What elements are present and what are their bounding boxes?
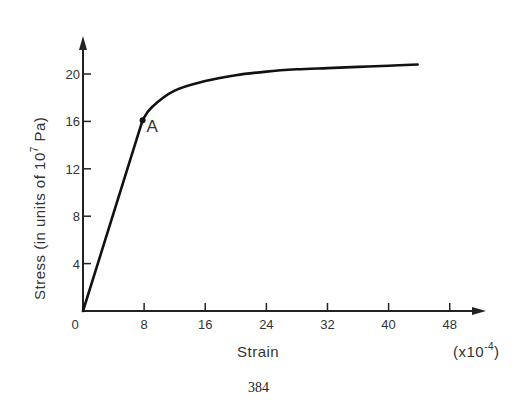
y-tick-label: 20: [66, 67, 80, 82]
y-tick-label: 8: [73, 209, 80, 224]
x-axis-title: Strain: [237, 343, 279, 360]
y-title-suffix: Pa): [31, 117, 48, 147]
y-tick-label: 12: [66, 162, 80, 177]
x-tick-label: 16: [198, 317, 212, 332]
x-tick-label: 8: [141, 317, 148, 332]
x-axis-multiplier: (x10-4): [453, 341, 500, 360]
x-ticks: [144, 303, 450, 311]
x-tick-label: 32: [320, 317, 334, 332]
point-a-label: A: [147, 117, 159, 136]
y-ticks: [83, 74, 91, 264]
x-multiplier-exponent: -4: [484, 341, 494, 352]
x-tick-label: 40: [381, 317, 395, 332]
y-axis-title: Stress (in units of 107 Pa): [29, 117, 48, 300]
y-title-prefix: Stress (in units of 10: [31, 152, 48, 300]
x-multiplier-suffix: ): [494, 343, 500, 360]
y-tick-label: 16: [66, 114, 80, 129]
stress-strain-chart: 48121620 081624324048 A Strain (x10-4) S…: [0, 0, 527, 416]
x-tick-label: 24: [259, 317, 273, 332]
x-multiplier-prefix: (x10: [453, 343, 484, 360]
x-tick-labels: 081624324048: [71, 317, 457, 332]
origin-label: 0: [71, 317, 78, 332]
x-tick-label: 48: [442, 317, 456, 332]
point-a-marker: [140, 117, 146, 123]
x-axis-arrow-icon: [472, 307, 486, 315]
y-axis-arrow-icon: [79, 36, 87, 50]
page-number: 384: [248, 380, 269, 396]
y-tick-labels: 48121620: [66, 67, 80, 272]
axes: [83, 44, 478, 311]
y-tick-label: 4: [73, 257, 80, 272]
stress-strain-curve: [83, 65, 418, 312]
